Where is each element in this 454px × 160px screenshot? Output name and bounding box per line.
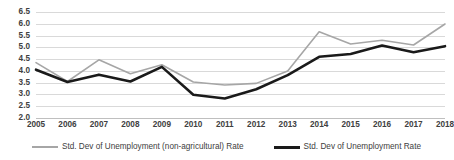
- x-axis-labels: 2005200620072008200920102011201220132014…: [36, 120, 445, 134]
- x-axis-tick-label: 2014: [310, 120, 328, 130]
- x-axis-tick-label: 2013: [279, 120, 297, 130]
- y-axis-tick-label: 4.5: [0, 55, 30, 63]
- series-line-unemployment: [36, 45, 445, 98]
- x-axis-tick-label: 2010: [184, 120, 202, 130]
- x-axis-tick-label: 2008: [121, 120, 139, 130]
- chart-legend: Std. Dev of Unemployment (non-agricultur…: [0, 138, 453, 156]
- x-axis-tick-label: 2007: [90, 120, 108, 130]
- legend-item-nonagricultural[interactable]: Std. Dev of Unemployment (non-agricultur…: [32, 142, 244, 152]
- x-axis-tick-label: 2016: [373, 120, 391, 130]
- x-axis-tick-label: 2006: [58, 120, 76, 130]
- legend-label-unemployment: Std. Dev of Unemployment Rate: [304, 142, 421, 152]
- y-axis-tick-label: 4.0: [0, 67, 30, 75]
- y-axis-tick-label: 5.5: [0, 32, 30, 40]
- x-axis-tick-label: 2012: [247, 120, 265, 130]
- legend-swatch-gray-line-icon: [32, 146, 58, 148]
- y-axis-tick-label: 6.5: [0, 8, 30, 16]
- y-axis-tick-label: 2.0: [0, 114, 30, 122]
- y-axis-tick-label: 6.0: [0, 20, 30, 28]
- x-axis-tick-label: 2018: [436, 120, 454, 130]
- series-lines: [36, 12, 445, 118]
- y-axis-tick-label: 2.5: [0, 102, 30, 110]
- legend-swatch-black-line-icon: [274, 146, 300, 149]
- x-axis-line: [36, 118, 445, 119]
- x-axis-tick-label: 2009: [153, 120, 171, 130]
- legend-label-nonagricultural: Std. Dev of Unemployment (non-agricultur…: [62, 142, 244, 152]
- x-axis-tick-label: 2005: [27, 120, 45, 130]
- y-axis-tick-label: 3.0: [0, 90, 30, 98]
- x-axis-tick-label: 2011: [216, 120, 234, 130]
- legend-item-unemployment[interactable]: Std. Dev of Unemployment Rate: [274, 142, 421, 152]
- x-axis-tick-label: 2017: [404, 120, 422, 130]
- y-axis-tick-label: 3.5: [0, 79, 30, 87]
- plot-area: [36, 12, 445, 118]
- y-axis-tick-label: 5.0: [0, 43, 30, 51]
- y-axis-labels: 2.02.53.03.54.04.55.05.56.06.5: [0, 12, 32, 118]
- x-axis-tick-label: 2015: [342, 120, 360, 130]
